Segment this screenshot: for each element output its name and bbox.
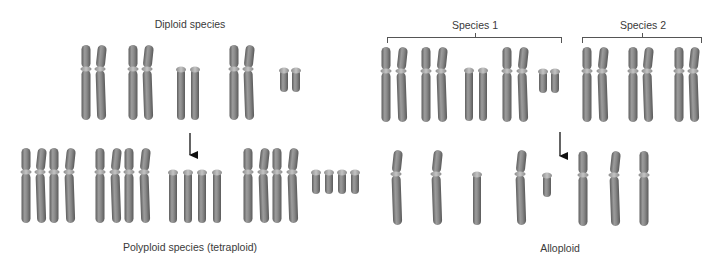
diploid-chromosomes: [81, 45, 302, 120]
tetraploid-chromosomes: [21, 148, 361, 223]
species-1-chromosomes: [381, 47, 561, 122]
chromosome-illustration: [0, 0, 719, 262]
species-2-chromosomes: [582, 47, 700, 122]
alloploid-chromosomes: [391, 150, 650, 226]
